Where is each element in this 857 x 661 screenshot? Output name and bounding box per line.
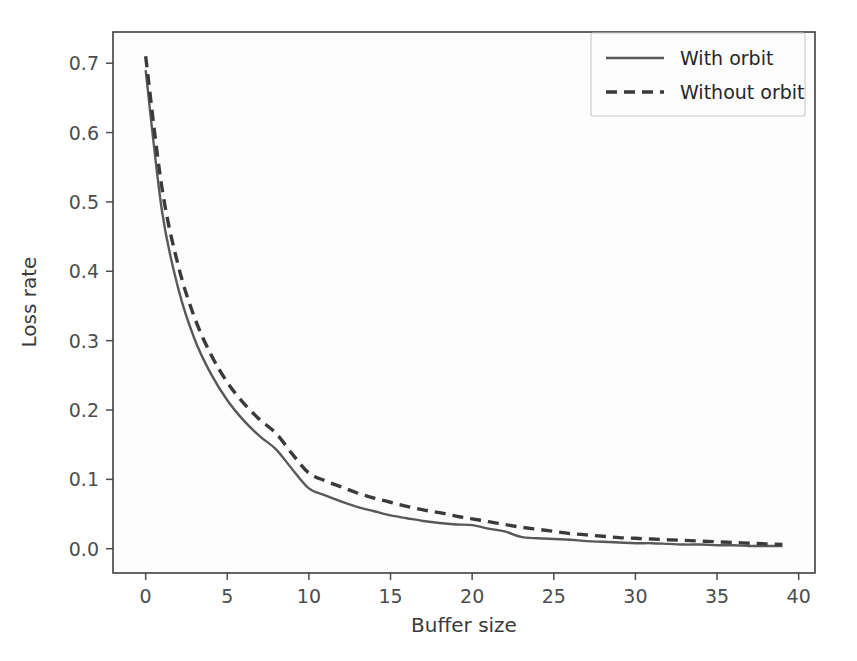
legend-label-1: With orbit [680,47,773,69]
x-tick-label: 15 [378,585,402,607]
x-axis-title: Buffer size [411,613,517,637]
x-tick-label: 20 [460,585,484,607]
x-tick-label: 25 [542,585,566,607]
y-tick-label: 0.1 [69,468,99,490]
chart-legend[interactable]: With orbitWithout orbit [591,33,805,116]
y-tick-label: 0.3 [69,330,99,352]
y-axis-title: Loss rate [17,257,41,348]
y-tick-label: 0.2 [69,399,99,421]
x-tick-label: 40 [787,585,811,607]
x-tick-label: 10 [297,585,321,607]
y-tick-label: 0.4 [69,260,99,282]
legend-label-2: Without orbit [680,81,805,103]
y-tick-label: 0.5 [69,191,99,213]
x-tick-label: 30 [623,585,647,607]
chart-figure: 0510152025303540 0.00.10.20.30.40.50.60.… [0,0,857,661]
y-tick-label: 0.0 [69,538,99,560]
x-tick-label: 0 [140,585,152,607]
chart-canvas: 0510152025303540 0.00.10.20.30.40.50.60.… [0,0,857,661]
x-tick-label: 5 [221,585,233,607]
y-tick-label: 0.6 [69,122,99,144]
legend-background [591,33,805,116]
x-tick-label: 35 [705,585,729,607]
y-tick-label: 0.7 [69,52,99,74]
